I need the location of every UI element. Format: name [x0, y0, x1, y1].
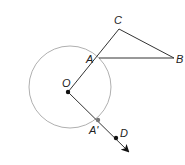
- label-a: A: [85, 53, 93, 65]
- label-d: D: [120, 127, 128, 139]
- label-a-prime: A': [88, 124, 99, 136]
- geometry-diagram: C A B O A' D: [0, 0, 185, 165]
- point-d: [114, 136, 118, 140]
- segment-cb: [119, 29, 174, 58]
- label-b: B: [176, 53, 183, 65]
- segment-oc: [68, 29, 119, 92]
- point-a-prime: [96, 118, 100, 122]
- label-c: C: [114, 14, 122, 26]
- point-o: [66, 90, 70, 94]
- label-o: O: [62, 77, 71, 89]
